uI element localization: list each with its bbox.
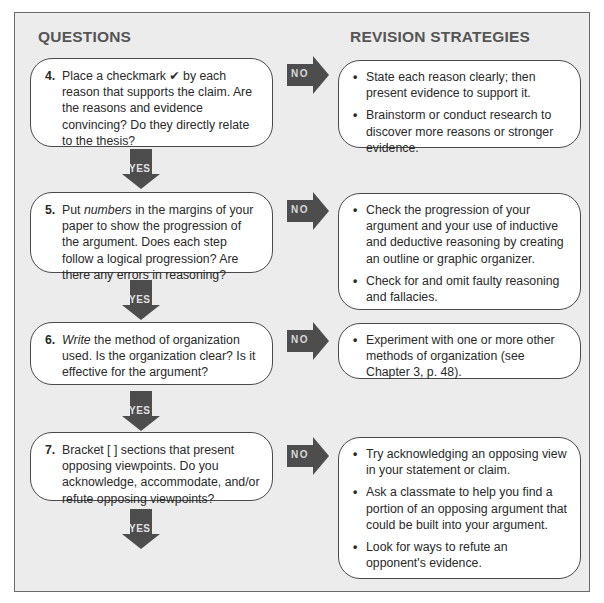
question-text: Place a checkmark ✔ by each reason that … [62, 68, 260, 149]
bullet-icon: • [353, 446, 366, 478]
strategy-item: •Check for and omit faulty reasoning and… [353, 273, 570, 305]
question-box-5: 5. Put numbers in the margins of your pa… [30, 192, 273, 273]
yes-arrow-down-icon: YES [122, 391, 160, 431]
strategy-item: •State each reason clearly; then present… [353, 69, 570, 101]
strategy-box-4: •State each reason clearly; then present… [338, 60, 581, 148]
strategy-text: Ask a classmate to help you find a porti… [366, 484, 570, 533]
yes-arrow-down-icon: YES [122, 280, 160, 320]
no-arrow-right-icon: NO [287, 437, 329, 475]
strategy-text: Experiment with one or more other method… [366, 332, 570, 381]
yes-label: YES [129, 163, 151, 174]
no-arrow-right-icon: NO [287, 56, 329, 94]
yes-label: YES [129, 405, 151, 416]
strategy-box-7: •Try acknowledging an opposing view in y… [338, 437, 581, 579]
questions-heading: QUESTIONS [38, 28, 131, 46]
strategy-item: •Look for ways to refute an opponent's e… [353, 539, 570, 571]
question-number: 7. [45, 442, 62, 507]
bullet-icon: • [353, 539, 366, 571]
question-box-4: 4. Place a checkmark ✔ by each reason th… [30, 58, 273, 147]
question-text-part: Put [62, 203, 84, 217]
no-label: NO [291, 204, 309, 215]
yes-label: YES [129, 294, 151, 305]
no-arrow-right-icon: NO [287, 322, 329, 360]
strategy-item: •Check the progression of your argument … [353, 202, 570, 267]
question-number: 5. [45, 202, 62, 283]
question-text-part: the method of organization used. Is the … [62, 333, 255, 379]
strategy-box-5: •Check the progression of your argument … [338, 193, 581, 310]
bullet-icon: • [353, 273, 366, 305]
bullet-icon: • [353, 202, 366, 267]
question-text: Write the method of organization used. I… [62, 332, 260, 381]
question-number: 6. [45, 332, 62, 381]
bullet-icon: • [353, 332, 366, 381]
question-text-emphasis: numbers [84, 203, 132, 217]
no-label: NO [291, 334, 309, 345]
yes-label: YES [129, 523, 151, 534]
strategy-text: Brainstorm or conduct research to discov… [366, 107, 570, 156]
yes-arrow-down-icon: YES [122, 509, 160, 549]
revision-strategies-heading: REVISION STRATEGIES [350, 28, 530, 46]
strategy-text: Try acknowledging an opposing view in yo… [366, 446, 570, 478]
question-box-6: 6. Write the method of organization used… [30, 322, 273, 385]
question-text: Put numbers in the margins of your paper… [62, 202, 260, 283]
strategy-item: •Brainstorm or conduct research to disco… [353, 107, 570, 156]
bullet-icon: • [353, 107, 366, 156]
yes-arrow-down-icon: YES [122, 149, 160, 189]
question-text: Bracket [ ] sections that present opposi… [62, 442, 260, 507]
checkmark-icon: ✔ [169, 69, 179, 83]
bullet-icon: • [353, 484, 366, 533]
no-label: NO [291, 68, 309, 79]
strategy-text: Check for and omit faulty reasoning and … [366, 273, 570, 305]
question-box-7: 7. Bracket [ ] sections that present opp… [30, 432, 273, 501]
strategy-item: •Try acknowledging an opposing view in y… [353, 446, 570, 478]
bullet-icon: • [353, 69, 366, 101]
strategy-item: •Ask a classmate to help you find a port… [353, 484, 570, 533]
strategy-text: Check the progression of your argument a… [366, 202, 570, 267]
no-arrow-right-icon: NO [287, 192, 329, 230]
strategy-text: State each reason clearly; then present … [366, 69, 570, 101]
strategy-text: Look for ways to refute an opponent's ev… [366, 539, 570, 571]
strategy-item: •Experiment with one or more other metho… [353, 332, 570, 381]
strategy-box-6: •Experiment with one or more other metho… [338, 323, 581, 379]
question-text-part: Place a checkmark [62, 69, 169, 83]
question-text-emphasis: Write [62, 333, 91, 347]
question-number: 4. [45, 68, 62, 149]
no-label: NO [291, 449, 309, 460]
